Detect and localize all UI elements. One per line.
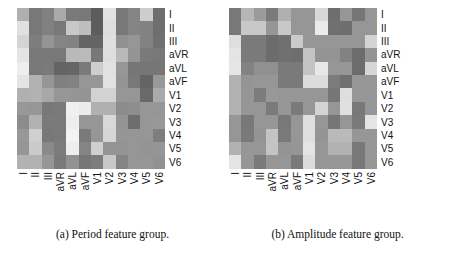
heatmap-cell — [241, 129, 253, 142]
heatmap-cell — [128, 62, 140, 75]
heatmap-column-label: V6 — [153, 172, 164, 184]
heatmap-cell — [103, 102, 115, 115]
heatmap-cell — [365, 115, 377, 128]
heatmap-cell — [254, 8, 266, 21]
heatmap-cell — [352, 75, 364, 88]
heatmap-cell — [291, 88, 303, 101]
heatmap-cell — [315, 21, 327, 34]
heatmap-cell — [79, 48, 91, 61]
heatmap-column-label-slot: V1 — [303, 169, 315, 227]
heatmap-cell — [365, 21, 377, 34]
heatmap-cell — [303, 48, 315, 61]
heatmap-cell — [241, 88, 253, 101]
heatmap-cell — [128, 88, 140, 101]
heatmap-row-label: V3 — [381, 115, 425, 128]
heatmap-a-cluster: IIIIIIaVRaVLaVFV1V2V3V4V5V6 IIIIIIaVRaVL… — [17, 8, 165, 169]
heatmap-cell — [365, 35, 377, 48]
heatmap-cell — [278, 88, 290, 101]
heatmap-row-label: V2 — [169, 102, 213, 115]
heatmap-cell — [241, 142, 253, 155]
heatmap-cell — [291, 155, 303, 168]
heatmap-cell — [17, 48, 29, 61]
heatmap-cell — [229, 75, 241, 88]
caption-a: (a) Period feature group. — [0, 228, 225, 240]
heatmap-row-label: III — [169, 35, 213, 48]
heatmap-cell — [66, 142, 78, 155]
heatmap-column-label-slot: II — [241, 169, 253, 227]
heatmap-cell — [352, 88, 364, 101]
heatmap-cell — [365, 129, 377, 142]
heatmap-cell — [328, 129, 340, 142]
heatmap-cell — [79, 129, 91, 142]
heatmap-cell — [254, 88, 266, 101]
heatmap-cell — [66, 102, 78, 115]
heatmap-cell — [128, 75, 140, 88]
heatmap-column-label: V4 — [341, 172, 352, 184]
heatmap-cell — [352, 21, 364, 34]
heatmap-cell — [140, 142, 152, 155]
heatmap-cell — [254, 155, 266, 168]
heatmap-cell — [328, 75, 340, 88]
heatmap-column-label: aVR — [55, 172, 66, 191]
heatmap-column-label: V6 — [365, 172, 376, 184]
heatmap-cell — [91, 62, 103, 75]
heatmap-cell — [29, 115, 41, 128]
heatmap-cell — [54, 115, 66, 128]
heatmap-cell — [116, 142, 128, 155]
heatmap-cell — [66, 62, 78, 75]
heatmap-cell — [278, 115, 290, 128]
heatmap-row-label: III — [381, 35, 425, 48]
heatmap-cell — [17, 142, 29, 155]
heatmap-cell — [352, 115, 364, 128]
heatmap-cell — [17, 35, 29, 48]
heatmap-cell — [241, 102, 253, 115]
heatmap-column-label-slot: V2 — [103, 169, 115, 227]
heatmap-cell — [303, 75, 315, 88]
heatmap-column-label: V5 — [353, 172, 364, 184]
heatmap-cell — [91, 102, 103, 115]
heatmap-cell — [241, 155, 253, 168]
heatmap-cell — [29, 35, 41, 48]
heatmap-row-label: II — [169, 21, 213, 34]
heatmap-column-label-slot: II — [29, 169, 41, 227]
heatmap-column-label: II — [242, 172, 253, 178]
heatmap-cell — [54, 8, 66, 21]
heatmap-cell — [303, 102, 315, 115]
heatmap-column-label-slot: aVF — [79, 169, 91, 227]
heatmap-cell — [328, 115, 340, 128]
heatmap-cell — [42, 62, 54, 75]
heatmap-column-label: V1 — [304, 172, 315, 184]
heatmap-cell — [266, 115, 278, 128]
heatmap-cell — [241, 75, 253, 88]
heatmap-cell — [303, 115, 315, 128]
heatmap-cell — [254, 35, 266, 48]
heatmap-cell — [315, 129, 327, 142]
heatmap-cell — [365, 155, 377, 168]
heatmap-cell — [340, 102, 352, 115]
heatmap-cell — [365, 142, 377, 155]
heatmap-cell — [140, 35, 152, 48]
heatmap-cell — [79, 62, 91, 75]
heatmap-cell — [17, 8, 29, 21]
heatmap-cell — [91, 155, 103, 168]
heatmap-cell — [29, 88, 41, 101]
heatmap-cell — [128, 129, 140, 142]
heatmap-cell — [116, 21, 128, 34]
heatmap-cell — [365, 8, 377, 21]
heatmap-column-label-slot: aVR — [266, 169, 278, 227]
heatmap-cell — [54, 62, 66, 75]
heatmap-cell — [153, 88, 165, 101]
heatmap-cell — [54, 48, 66, 61]
heatmap-cell — [340, 155, 352, 168]
heatmap-column-label: aVL — [67, 172, 78, 190]
heatmap-cell — [365, 88, 377, 101]
heatmap-cell — [116, 129, 128, 142]
heatmap-cell — [153, 8, 165, 21]
heatmap-cell — [29, 8, 41, 21]
heatmap-cell — [229, 8, 241, 21]
heatmap-cell — [79, 35, 91, 48]
heatmap-cell — [42, 8, 54, 21]
heatmap-cell — [303, 8, 315, 21]
heatmap-cell — [79, 115, 91, 128]
heatmap-column-label: III — [254, 172, 265, 180]
